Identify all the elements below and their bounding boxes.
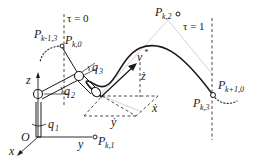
pk0-subscript: k,0 (72, 40, 82, 49)
robot-trajectory-diagram: τ = 0 τ = 1 v * ż ẋ ẏ (0, 0, 257, 162)
q3-subscript: 3 (98, 67, 103, 76)
velocity-superscript: * (144, 48, 148, 57)
control-point-pk1 (93, 135, 97, 139)
q2-subscript: 2 (71, 91, 75, 100)
tau-one-label: τ = 1 (183, 20, 205, 32)
q3-label: q (92, 60, 98, 74)
pk3-subscript: k,3 (200, 103, 210, 112)
previous-segment-curve (40, 46, 62, 62)
velocity-label: v (137, 50, 143, 64)
pk1-subscript: k,1 (105, 141, 115, 150)
vel-x-label: ẋ (151, 101, 158, 115)
pk2-subscript: k,2 (162, 12, 172, 21)
axis-z-label: z (25, 73, 31, 87)
vel-y-label: ẏ (110, 115, 117, 129)
q2-label: q (64, 84, 70, 98)
pkm13-subscript: k-1,3 (41, 34, 57, 43)
control-point-pk0 (60, 44, 64, 48)
control-point-pk2 (176, 12, 180, 16)
q1-label: q (48, 117, 54, 131)
velocity-arrow (102, 63, 137, 96)
vel-z-label: ż (140, 69, 146, 83)
control-point-pk3 (211, 93, 216, 98)
tau-zero-label: τ = 0 (67, 12, 89, 24)
axis-y-label: y (77, 137, 84, 151)
q1-rotation-arrow (32, 124, 46, 126)
origin-label: O (21, 130, 30, 144)
elbow-joint (75, 72, 84, 81)
pkp10-subscript: k+1,0 (225, 85, 244, 94)
q1-subscript: 1 (55, 124, 59, 133)
next-segment-curve (213, 95, 237, 103)
axis-x-label: x (8, 144, 15, 158)
